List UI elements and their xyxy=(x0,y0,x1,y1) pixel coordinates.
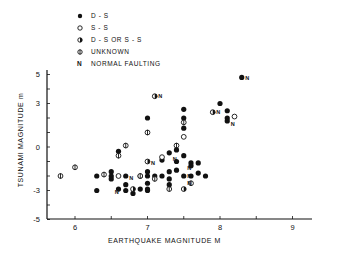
x-tick-label: 6 xyxy=(73,223,77,232)
svg-text:N: N xyxy=(158,93,162,99)
data-point xyxy=(145,181,150,186)
data-point xyxy=(174,143,179,148)
scatter-plot: 6789530-3-5 NNNNNNNNNNN xyxy=(0,0,343,262)
data-point xyxy=(145,159,150,164)
y-tick-label: 5 xyxy=(36,70,40,79)
data-point xyxy=(181,173,186,178)
data-point xyxy=(167,186,172,191)
data-point xyxy=(152,94,157,99)
svg-text:N: N xyxy=(245,75,249,81)
data-point xyxy=(196,160,201,165)
data-point: N xyxy=(115,189,119,195)
data-point: N xyxy=(231,121,235,127)
data-point xyxy=(167,176,172,181)
data-point xyxy=(174,168,179,173)
data-point xyxy=(181,107,186,112)
y-axis-label: TSUNAMI MAGNITUDE m xyxy=(17,93,24,188)
svg-text:N: N xyxy=(173,156,177,162)
data-point xyxy=(152,176,157,181)
svg-text:N: N xyxy=(231,121,235,127)
data-point xyxy=(181,153,186,158)
data-point: N xyxy=(158,93,162,99)
data-point: N xyxy=(151,160,155,166)
data-point xyxy=(181,126,186,131)
data-point xyxy=(73,165,78,170)
data-point: N xyxy=(187,180,191,186)
data-point xyxy=(116,153,121,158)
data-point xyxy=(217,101,222,106)
svg-text:N: N xyxy=(115,189,119,195)
data-point xyxy=(138,186,143,191)
data-point xyxy=(167,150,172,155)
data-points: NNNNNNNNNNN xyxy=(58,75,249,196)
data-point xyxy=(109,176,114,181)
data-point xyxy=(181,120,186,125)
data-point xyxy=(225,108,230,113)
data-point xyxy=(145,169,150,174)
svg-text:N: N xyxy=(216,109,220,115)
data-point: N xyxy=(187,165,191,171)
data-point xyxy=(94,173,99,178)
x-tick-label: 7 xyxy=(145,223,149,232)
data-point xyxy=(94,188,99,193)
data-point xyxy=(123,143,128,148)
axes xyxy=(47,70,312,219)
data-point xyxy=(167,169,172,174)
data-point: N xyxy=(173,156,177,162)
y-tick-label: 3 xyxy=(36,99,40,108)
data-point xyxy=(131,187,136,192)
data-point: N xyxy=(245,75,249,81)
svg-text:N: N xyxy=(151,160,155,166)
data-point: N xyxy=(216,109,220,115)
data-point xyxy=(225,118,230,123)
data-point: N xyxy=(187,173,191,179)
y-tick-label: -5 xyxy=(33,215,40,224)
y-tick-label: 0 xyxy=(36,143,40,152)
data-point xyxy=(58,173,63,178)
data-point xyxy=(123,182,128,187)
y-tick-label: -3 xyxy=(33,186,40,195)
x-axis-label: EARTHQUAKE MAGNITUDE M xyxy=(108,237,221,244)
data-point xyxy=(159,173,164,178)
data-point xyxy=(145,186,150,191)
svg-text:N: N xyxy=(187,180,191,186)
data-point: N xyxy=(129,175,133,181)
data-point xyxy=(232,114,237,119)
svg-text:N: N xyxy=(187,165,191,171)
x-tick-label: 8 xyxy=(218,223,222,232)
data-point xyxy=(138,173,143,178)
x-tick-label: 9 xyxy=(290,223,294,232)
data-point xyxy=(239,75,244,80)
data-point xyxy=(145,130,150,135)
data-point xyxy=(116,174,121,179)
svg-text:N: N xyxy=(187,173,191,179)
data-point xyxy=(203,173,208,178)
data-point xyxy=(123,188,128,193)
data-point xyxy=(123,173,128,178)
data-point xyxy=(102,172,107,177)
data-point xyxy=(160,155,165,160)
ticks: 6789530-3-5 xyxy=(33,70,294,232)
svg-text:N: N xyxy=(129,175,133,181)
data-point xyxy=(181,187,186,192)
data-point xyxy=(145,115,150,120)
data-point xyxy=(181,134,186,139)
data-point xyxy=(196,171,201,176)
data-point xyxy=(210,110,215,115)
